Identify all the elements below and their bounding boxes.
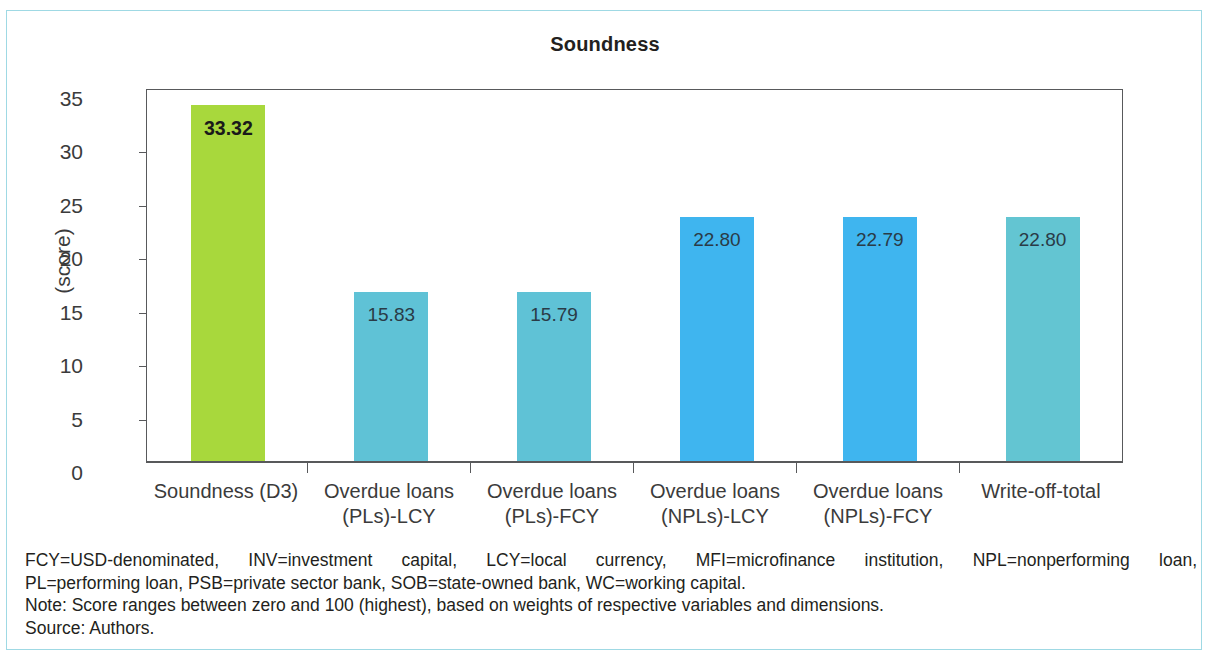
bar-value-label-4: 22.79 — [820, 229, 940, 251]
bar-value-label-0: 33.32 — [168, 117, 288, 140]
x-label-line1: Write-off-total — [981, 480, 1100, 502]
notes-abbreviations-line1: FCY=USD-denominated, INV=investment capi… — [25, 549, 1197, 572]
y-tick-label-15: 15 — [23, 301, 83, 325]
bar-overdue-npls-lcy[interactable] — [680, 217, 754, 461]
x-axis-label-5: Write-off-total — [946, 479, 1136, 504]
bar-soundness-d3[interactable] — [191, 105, 265, 461]
y-tick-label-10: 10 — [23, 354, 83, 378]
figure-frame: Soundness (score) 35 30 25 20 15 10 5 0 … — [6, 10, 1202, 650]
x-axis-label-1: Overdue loans (PLs)-LCY — [294, 479, 484, 529]
x-tick-mark — [959, 463, 960, 473]
x-tick-mark — [633, 463, 634, 473]
x-label-line2: (PLs)-LCY — [294, 504, 484, 529]
bar-value-label-5: 22.80 — [983, 229, 1103, 251]
bar-value-label-3: 22.80 — [657, 229, 777, 251]
x-label-line1: Overdue loans — [324, 480, 454, 502]
x-label-line1: Overdue loans — [487, 480, 617, 502]
x-axis-label-3: Overdue loans (NPLs)-LCY — [620, 479, 810, 529]
notes-source-line: Source: Authors. — [25, 617, 1197, 640]
x-axis-label-2: Overdue loans (PLs)-FCY — [457, 479, 647, 529]
bar-value-label-2: 15.79 — [494, 304, 614, 326]
y-tick-label-20: 20 — [23, 247, 83, 271]
x-label-line1: Soundness (D3) — [154, 480, 299, 502]
bar-overdue-npls-fcy[interactable] — [843, 217, 917, 461]
x-tick-mark — [796, 463, 797, 473]
x-label-line2: (NPLs)-FCY — [783, 504, 973, 529]
bar-write-off-total[interactable] — [1006, 217, 1080, 461]
y-tick-label-0: 0 — [23, 461, 83, 485]
y-tick-label-35: 35 — [23, 87, 83, 111]
x-label-line1: Overdue loans — [650, 480, 780, 502]
x-label-line2: (NPLs)-LCY — [620, 504, 810, 529]
chart-title: Soundness — [7, 33, 1203, 56]
x-tick-mark — [307, 463, 308, 473]
y-tick-label-25: 25 — [23, 194, 83, 218]
x-axis-label-0: Soundness (D3) — [131, 479, 321, 504]
notes-note-line: Note: Score ranges between zero and 100 … — [25, 594, 1197, 617]
y-tick-label-30: 30 — [23, 140, 83, 164]
x-label-line2: (PLs)-FCY — [457, 504, 647, 529]
x-tick-mark — [470, 463, 471, 473]
figure-notes: FCY=USD-denominated, INV=investment capi… — [25, 549, 1197, 639]
plot-area: 33.32 15.83 15.79 22.80 22.79 22.80 — [146, 89, 1123, 463]
x-label-line1: Overdue loans — [813, 480, 943, 502]
bar-value-label-1: 15.83 — [331, 304, 451, 326]
x-axis-label-4: Overdue loans (NPLs)-FCY — [783, 479, 973, 529]
y-tick-label-5: 5 — [23, 408, 83, 432]
notes-abbreviations-line2: PL=performing loan, PSB=private sector b… — [25, 572, 1197, 595]
